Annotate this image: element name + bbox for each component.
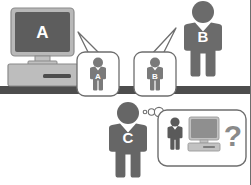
bubble-b-person-letter: B bbox=[152, 72, 158, 81]
bubble-a-person-letter: A bbox=[95, 72, 101, 81]
ground-line bbox=[0, 86, 251, 94]
person-c-head bbox=[117, 102, 139, 124]
speech-bubble-b: B bbox=[134, 28, 176, 96]
thought-dot-small bbox=[143, 110, 147, 114]
speech-bubble-a: A bbox=[77, 32, 119, 96]
person-c-letter: C bbox=[123, 129, 134, 146]
desktop-computer: A bbox=[8, 8, 78, 86]
person-b-head bbox=[192, 1, 214, 23]
diagram-svg: A A bbox=[0, 0, 251, 185]
person-b-figure: B bbox=[184, 1, 222, 77]
bubble-a-person-head bbox=[93, 58, 103, 68]
drive-slot bbox=[43, 74, 71, 78]
thought-computer-icon bbox=[188, 117, 220, 151]
thought-monitor-screen bbox=[191, 119, 217, 138]
diagram-canvas: A A bbox=[0, 0, 251, 185]
thought-dot-medium bbox=[148, 109, 154, 115]
thought-person-head bbox=[170, 117, 179, 126]
thought-drive-slot bbox=[203, 146, 215, 148]
person-b-letter: B bbox=[198, 28, 209, 45]
question-mark-icon: ? bbox=[224, 119, 242, 152]
bubble-b-person-head bbox=[150, 58, 160, 68]
monitor-screen-letter: A bbox=[36, 23, 48, 42]
person-c-figure: C bbox=[109, 102, 147, 178]
thought-bubble-c: ? bbox=[143, 107, 246, 166]
